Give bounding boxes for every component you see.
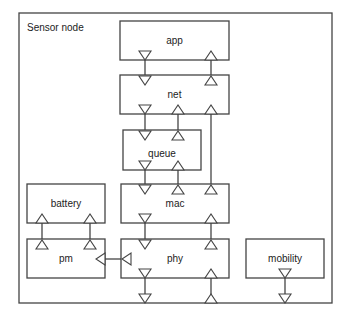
svg-text:battery: battery [51, 198, 82, 209]
svg-text:net: net [168, 89, 182, 100]
module-queue: queue [123, 130, 201, 170]
container-title: Sensor node [27, 22, 84, 33]
svg-text:pm: pm [59, 253, 73, 264]
svg-text:mobility: mobility [268, 253, 302, 264]
module-battery: battery [27, 184, 105, 223]
svg-text:app: app [166, 35, 183, 46]
svg-text:mac: mac [166, 198, 185, 209]
svg-text:queue: queue [148, 148, 176, 159]
svg-text:phy: phy [167, 253, 183, 264]
sensor-node-diagram: Sensor node app net queue mac phy [0, 0, 350, 321]
